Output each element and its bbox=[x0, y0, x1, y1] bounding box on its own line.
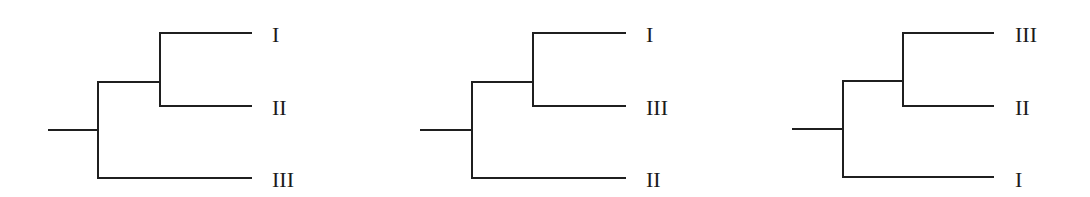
leaf-label-1: III bbox=[1015, 22, 1037, 47]
tree-2: I III II bbox=[420, 22, 668, 192]
leaf-label-3: I bbox=[1015, 167, 1022, 192]
leaf-label-1: I bbox=[646, 22, 653, 47]
leaf-label-2: II bbox=[1015, 95, 1030, 120]
leaf-label-2: III bbox=[646, 95, 668, 120]
tree-1: I II III bbox=[48, 22, 294, 192]
leaf-label-3: III bbox=[272, 167, 294, 192]
tree-diagram-canvas: I II III I III II III II bbox=[0, 0, 1090, 197]
tree-3: III II I bbox=[792, 22, 1037, 192]
leaf-label-3: II bbox=[646, 167, 661, 192]
leaf-label-2: II bbox=[272, 95, 287, 120]
trees-svg: I II III I III II III II bbox=[0, 0, 1090, 197]
leaf-label-1: I bbox=[272, 22, 279, 47]
